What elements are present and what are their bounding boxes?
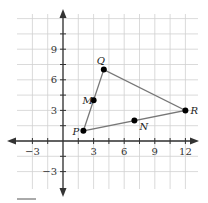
x-tick-label: 3: [90, 146, 96, 157]
y-tick-label: 9: [51, 44, 57, 55]
point-label-q: Q: [97, 55, 105, 66]
x-tick-label: −3: [25, 146, 40, 157]
point-label-m: M: [82, 95, 94, 106]
point-label-p: P: [71, 126, 79, 137]
x-tick-label: 12: [179, 146, 192, 157]
point-p-icon: [80, 128, 86, 134]
point-label-r: R: [189, 105, 198, 116]
grid-lines: [17, 14, 198, 189]
point-q-icon: [101, 67, 107, 73]
point-r-icon: [182, 107, 188, 113]
y-tick-label: 3: [51, 105, 57, 116]
y-tick-label: −3: [42, 166, 57, 177]
x-tick-label: 9: [152, 146, 158, 157]
x-axis-arrow-left-icon: [7, 138, 16, 145]
point-label-n: N: [138, 121, 149, 132]
points: PMQRN: [71, 55, 198, 137]
y-axis-arrow-up-icon: [60, 9, 67, 18]
point-n-icon: [131, 118, 137, 124]
x-tick-label: 6: [121, 146, 127, 157]
y-axis-arrow-down-icon: [60, 188, 67, 197]
coordinate-plane: −336912−3369 PMQRN: [0, 0, 208, 203]
x-axis-arrow-right-icon: [190, 138, 199, 145]
y-tick-label: 6: [51, 74, 57, 85]
